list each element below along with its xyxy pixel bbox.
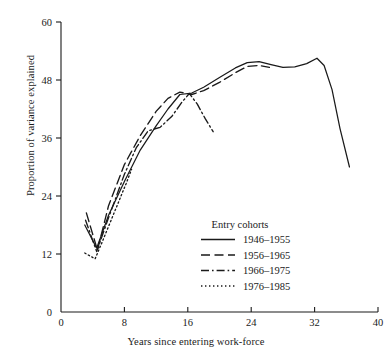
legend-label-2: 1956–1965 — [243, 250, 290, 261]
legend-layer: Entry cohorts1946–19551956–19651966–1975… — [201, 219, 290, 292]
axis-layer: 122436486008162432400 — [42, 17, 384, 328]
plot-area: 122436486008162432400 Entry cohorts1946–… — [0, 0, 392, 361]
legend-label-1: 1946–1955 — [243, 234, 290, 245]
y-axis-label: Proportion of variance explained — [25, 26, 36, 226]
y-origin-label: 0 — [47, 307, 52, 318]
x-tick-label: 16 — [183, 317, 194, 328]
legend-title: Entry cohorts — [212, 219, 269, 230]
x-tick-label: 32 — [309, 317, 320, 328]
x-tick-label: 24 — [246, 317, 257, 328]
y-tick-label: 12 — [42, 249, 53, 260]
series-line-3 — [86, 94, 214, 252]
y-tick-label: 24 — [42, 191, 53, 202]
y-tick-label: 60 — [42, 17, 53, 28]
x-tick-label: 8 — [122, 317, 127, 328]
x-tick-label: 40 — [373, 317, 384, 328]
legend-label-4: 1976–1985 — [243, 281, 290, 292]
x-axis-label: Years since entering work-force — [0, 336, 392, 347]
series-line-4 — [85, 169, 132, 258]
chart-figure: Proportion of variance explained Years s… — [0, 0, 392, 361]
y-tick-label: 48 — [42, 75, 53, 86]
legend-label-3: 1966–1975 — [243, 265, 290, 276]
x-tick-label: 0 — [58, 317, 63, 328]
y-tick-label: 36 — [42, 133, 53, 144]
